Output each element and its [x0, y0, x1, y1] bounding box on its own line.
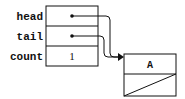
head-label: head — [17, 11, 43, 23]
tail-label: tail — [17, 31, 44, 43]
list-node: A — [124, 54, 176, 96]
pointer-arrows — [72, 16, 119, 57]
arrowhead-icon — [118, 53, 124, 61]
linked-list-diagram: head tail count 1 A — [0, 0, 185, 99]
null-pointer-slash — [124, 74, 176, 96]
count-value: 1 — [69, 50, 75, 62]
count-label: count — [10, 51, 43, 63]
node-data: A — [147, 60, 153, 71]
